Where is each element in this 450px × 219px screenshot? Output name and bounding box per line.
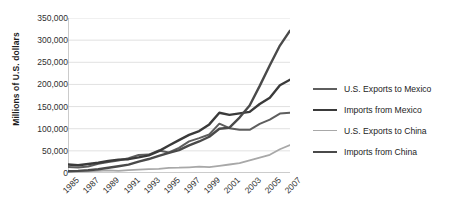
- y-axis-tick-label: 350,000: [18, 13, 68, 23]
- series-line-3: [68, 31, 290, 172]
- y-axis-tick-label: 200,000: [18, 79, 68, 89]
- legend-item-label: Imports from China: [344, 147, 417, 157]
- y-axis-tick-label: 300,000: [18, 35, 68, 45]
- y-axis-tick-label: 50,000: [18, 146, 68, 156]
- chart-legend: U.S. Exports to MexicoImports from Mexic…: [313, 78, 450, 162]
- legend-swatch-icon: [313, 88, 337, 90]
- x-axis-tick-label: 1993: [136, 175, 161, 200]
- x-axis-tick-label: 1995: [157, 175, 182, 200]
- legend-item-label: U.S. Exports to Mexico: [344, 84, 431, 94]
- legend-swatch-icon: [313, 109, 337, 111]
- legend-item[interactable]: Imports from Mexico: [313, 99, 450, 120]
- legend-swatch-icon: [313, 130, 337, 131]
- x-axis-tick-label: 2003: [237, 175, 262, 200]
- x-axis-tick-label: 1999: [197, 175, 222, 200]
- y-axis-tick-label: 100,000: [18, 124, 68, 134]
- plot-svg: [68, 18, 290, 173]
- y-axis-tick-label: 150,000: [18, 102, 68, 112]
- x-axis-tick-label: 1997: [177, 175, 202, 200]
- legend-item[interactable]: Imports from China: [313, 141, 450, 162]
- x-axis-tick-label: 1989: [96, 175, 121, 200]
- x-axis-tick-labels: 1985198719891991199319951997199920012003…: [68, 175, 308, 219]
- x-axis-tick-label: 2005: [257, 175, 282, 200]
- y-axis-tick-labels: 050,000100,000150,000200,000250,000300,0…: [18, 0, 68, 219]
- legend-swatch-icon: [313, 151, 337, 153]
- legend-item[interactable]: U.S. Exports to Mexico: [313, 78, 450, 99]
- x-axis-tick-label: 2007: [278, 175, 303, 200]
- legend-item-label: U.S. Exports to China: [344, 126, 427, 136]
- x-axis-tick-label: 2001: [217, 175, 242, 200]
- x-axis-tick-label: 1987: [76, 175, 101, 200]
- x-axis-tick-label: 1991: [116, 175, 141, 200]
- line-chart: Millions of U.S. dollars 050,000100,0001…: [0, 0, 450, 219]
- plot-area: [68, 18, 290, 173]
- y-axis-tick-label: 250,000: [18, 57, 68, 67]
- y-axis-tick-label: 0: [18, 168, 68, 178]
- legend-item-label: Imports from Mexico: [344, 105, 422, 115]
- legend-item[interactable]: U.S. Exports to China: [313, 120, 450, 141]
